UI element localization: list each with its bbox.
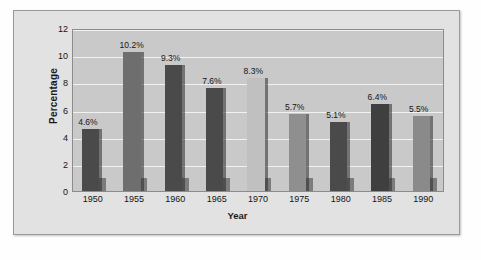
y-tick-label: 4 bbox=[46, 133, 68, 143]
bar-group: 5.1% bbox=[321, 30, 362, 191]
y-tick-label: 6 bbox=[46, 106, 68, 116]
x-tick-label: 1985 bbox=[361, 194, 402, 204]
bar-value-label: 6.4% bbox=[368, 92, 385, 102]
x-tick-label: 1980 bbox=[320, 194, 361, 204]
bar[interactable]: 7.6% bbox=[206, 88, 223, 191]
scanned-page: Percentage 024681012 4.6%10.2%9.3%7.6%8.… bbox=[0, 0, 481, 260]
y-tick-label: 12 bbox=[46, 24, 68, 34]
x-tick-label: 1965 bbox=[196, 194, 237, 204]
bar-value-label: 5.5% bbox=[409, 104, 426, 114]
chart-frame: Percentage 024681012 4.6%10.2%9.3%7.6%8.… bbox=[13, 10, 460, 235]
bar-group: 5.7% bbox=[280, 30, 321, 191]
bar-side-face bbox=[265, 78, 268, 191]
x-axis-title: Year bbox=[14, 210, 461, 221]
bar[interactable]: 5.7% bbox=[289, 114, 306, 191]
x-tick-label: 1960 bbox=[155, 194, 196, 204]
bar-value-label: 10.2% bbox=[120, 40, 137, 50]
bar[interactable]: 9.3% bbox=[165, 65, 182, 191]
bar-value-label: 9.3% bbox=[161, 53, 178, 63]
x-tick-label: 1970 bbox=[237, 194, 278, 204]
bar-group: 8.3% bbox=[238, 30, 279, 191]
bar-group: 9.3% bbox=[156, 30, 197, 191]
bar-side-face bbox=[389, 104, 392, 191]
bars-layer: 4.6%10.2%9.3%7.6%8.3%5.7%5.1%6.4%5.5% bbox=[73, 30, 443, 191]
bar-side-face bbox=[182, 65, 185, 191]
x-tick-label: 1975 bbox=[279, 194, 320, 204]
bar-value-label: 5.7% bbox=[285, 102, 302, 112]
y-tick-label: 0 bbox=[46, 187, 68, 197]
y-tick-label: 10 bbox=[46, 51, 68, 61]
y-tick-label: 8 bbox=[46, 78, 68, 88]
bar-side-face bbox=[306, 114, 309, 191]
x-tick-label: 1950 bbox=[72, 194, 113, 204]
bar-group: 6.4% bbox=[362, 30, 403, 191]
bar[interactable]: 10.2% bbox=[123, 52, 140, 191]
bar[interactable]: 4.6% bbox=[82, 129, 99, 191]
bar-side-face bbox=[223, 88, 226, 191]
bar-value-label: 7.6% bbox=[202, 76, 219, 86]
bar-value-label: 5.1% bbox=[326, 110, 343, 120]
plot-area: 4.6%10.2%9.3%7.6%8.3%5.7%5.1%6.4%5.5% bbox=[72, 29, 444, 192]
bar-value-label: 4.6% bbox=[78, 117, 95, 127]
bar-group: 5.5% bbox=[404, 30, 445, 191]
bar[interactable]: 5.1% bbox=[330, 122, 347, 191]
x-tick-label: 1990 bbox=[403, 194, 444, 204]
bar[interactable]: 8.3% bbox=[247, 78, 264, 191]
bar-group: 4.6% bbox=[73, 30, 114, 191]
bar[interactable]: 5.5% bbox=[413, 116, 430, 191]
bar-side-face bbox=[347, 122, 350, 191]
x-tick-label: 1955 bbox=[113, 194, 154, 204]
bar-side-face bbox=[99, 129, 102, 191]
bar-group: 10.2% bbox=[114, 30, 155, 191]
bar-value-label: 8.3% bbox=[244, 66, 261, 76]
x-axis-tick-labels: 195019551960196519701975198019851990 bbox=[72, 194, 444, 210]
bar[interactable]: 6.4% bbox=[371, 104, 388, 191]
bar-side-face bbox=[430, 116, 433, 191]
bar-group: 7.6% bbox=[197, 30, 238, 191]
y-axis-tick-labels: 024681012 bbox=[42, 29, 68, 192]
y-tick-label: 2 bbox=[46, 160, 68, 170]
bar-side-face bbox=[141, 52, 144, 191]
